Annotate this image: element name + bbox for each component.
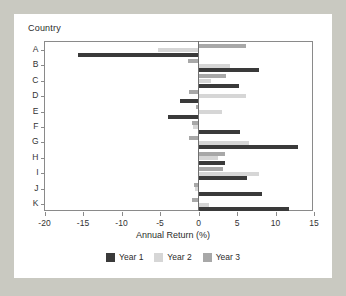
y-axis-tick bbox=[41, 127, 45, 128]
y-axis-label-h: H bbox=[19, 152, 39, 162]
legend-label: Year 3 bbox=[216, 252, 240, 262]
bar-i-year-2 bbox=[199, 172, 259, 176]
bar-c-year-3 bbox=[199, 74, 227, 78]
bar-b-year-1 bbox=[199, 68, 260, 72]
x-axis-tick-label: -5 bbox=[143, 218, 177, 228]
y-axis-label-f: F bbox=[19, 121, 39, 131]
y-axis-label-b: B bbox=[19, 59, 39, 69]
y-axis-label-g: G bbox=[19, 136, 39, 146]
bar-d-year-3 bbox=[189, 90, 198, 94]
y-axis-tick bbox=[41, 173, 45, 174]
bar-d-year-2 bbox=[199, 94, 247, 98]
bar-j-year-2 bbox=[195, 187, 199, 191]
bar-a-year-3 bbox=[199, 44, 247, 48]
y-axis-label-a: A bbox=[19, 44, 39, 54]
x-axis-tick-label: 10 bbox=[259, 218, 293, 228]
x-axis-tick bbox=[160, 212, 161, 216]
legend-swatch-icon bbox=[203, 253, 212, 262]
y-axis-tick bbox=[41, 189, 45, 190]
legend-label: Year 1 bbox=[119, 252, 143, 262]
x-axis-tick-label: 0 bbox=[182, 218, 216, 228]
x-axis-tick bbox=[122, 212, 123, 216]
legend-item[interactable]: Year 2 bbox=[154, 252, 191, 262]
y-axis-title: Country bbox=[28, 23, 61, 33]
bar-k-year-3 bbox=[192, 198, 199, 202]
bar-e-year-3 bbox=[196, 105, 198, 109]
bar-a-year-2 bbox=[158, 48, 199, 52]
bar-b-year-3 bbox=[188, 59, 199, 63]
y-axis-label-e: E bbox=[19, 106, 39, 116]
bar-g-year-2 bbox=[199, 141, 250, 145]
bar-f-year-1 bbox=[199, 130, 241, 134]
chart-figure: Country ABCDEFGHIJK -20-15-10-5051015 An… bbox=[14, 14, 332, 278]
x-axis-tick bbox=[45, 212, 46, 216]
y-axis-tick bbox=[41, 81, 45, 82]
y-axis-tick bbox=[41, 96, 45, 97]
x-axis-tick bbox=[237, 212, 238, 216]
x-axis-tick-label: -20 bbox=[28, 218, 62, 228]
bar-b-year-2 bbox=[199, 64, 231, 68]
x-axis-tick bbox=[199, 212, 200, 216]
y-axis-tick bbox=[41, 112, 45, 113]
bar-c-year-2 bbox=[199, 79, 211, 83]
y-axis-label-j: J bbox=[19, 183, 39, 193]
x-axis-tick-label: -15 bbox=[66, 218, 100, 228]
legend-label: Year 2 bbox=[167, 252, 191, 262]
y-axis-tick bbox=[41, 50, 45, 51]
bar-a-year-1 bbox=[78, 53, 199, 57]
y-axis-tick bbox=[41, 158, 45, 159]
bar-h-year-2 bbox=[199, 156, 218, 160]
legend-item[interactable]: Year 1 bbox=[106, 252, 143, 262]
bar-i-year-3 bbox=[199, 167, 224, 171]
bar-k-year-1 bbox=[199, 207, 289, 211]
y-axis-label-d: D bbox=[19, 90, 39, 100]
bar-h-year-1 bbox=[199, 161, 226, 165]
bar-j-year-3 bbox=[194, 183, 199, 187]
x-axis-tick-label: -10 bbox=[105, 218, 139, 228]
legend-swatch-icon bbox=[106, 253, 115, 262]
x-axis-title: Annual Return (%) bbox=[14, 230, 332, 240]
bar-h-year-3 bbox=[199, 152, 225, 156]
x-axis-tick bbox=[83, 212, 84, 216]
bar-f-year-2 bbox=[193, 125, 198, 129]
bar-j-year-1 bbox=[199, 192, 262, 196]
bar-e-year-2 bbox=[199, 110, 222, 114]
y-axis-label-k: K bbox=[19, 198, 39, 208]
x-axis-tick bbox=[314, 212, 315, 216]
y-axis-tick bbox=[41, 65, 45, 66]
legend-item[interactable]: Year 3 bbox=[203, 252, 240, 262]
bar-g-year-3 bbox=[189, 136, 198, 140]
y-axis-tick bbox=[41, 204, 45, 205]
bar-c-year-1 bbox=[199, 84, 240, 88]
chart-legend: Year 1Year 2Year 3 bbox=[14, 252, 332, 262]
bar-f-year-3 bbox=[192, 121, 198, 125]
bar-e-year-1 bbox=[168, 115, 199, 119]
y-axis-label-c: C bbox=[19, 75, 39, 85]
x-axis-tick bbox=[276, 212, 277, 216]
x-axis-tick-label: 15 bbox=[297, 218, 331, 228]
y-axis-label-i: I bbox=[19, 167, 39, 177]
bar-g-year-1 bbox=[199, 145, 298, 149]
plot-area: ABCDEFGHIJK -20-15-10-5051015 bbox=[44, 41, 314, 211]
bar-d-year-1 bbox=[180, 99, 198, 103]
bar-k-year-2 bbox=[199, 203, 209, 207]
x-axis-tick-label: 5 bbox=[220, 218, 254, 228]
legend-swatch-icon bbox=[154, 253, 163, 262]
y-axis-tick bbox=[41, 142, 45, 143]
bar-i-year-1 bbox=[199, 176, 248, 180]
